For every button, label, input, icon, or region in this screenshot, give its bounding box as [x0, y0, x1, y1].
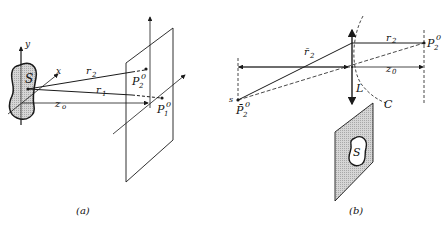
label-p2: P 2 0 — [426, 33, 441, 52]
caption-b: (b) — [349, 205, 363, 216]
svg-text:1: 1 — [102, 90, 106, 98]
svg-text:2: 2 — [242, 111, 248, 119]
svg-text:0: 0 — [245, 100, 250, 109]
svg-text:2: 2 — [138, 82, 144, 90]
label-r2bar: r̄ 2 — [304, 46, 315, 60]
panel-b: r̄ 2 r 2 P 2 0 z 0 L C s P̄ 2 0 S (b) — [229, 16, 441, 216]
panel-a: S y x r 2 r 1 z o P 2 0 P 1 0 (a) — [8, 17, 185, 216]
point-p2 — [144, 67, 147, 70]
label-p1: P 1 0 — [156, 100, 171, 118]
svg-text:0: 0 — [392, 68, 397, 76]
svg-text:0: 0 — [436, 33, 441, 42]
svg-text:2: 2 — [309, 52, 315, 60]
point-p2bar — [236, 98, 239, 101]
label-y: y — [24, 39, 31, 49]
label-z0: z 0 — [385, 63, 397, 76]
label-x: x — [56, 66, 61, 76]
svg-text:0: 0 — [166, 100, 171, 109]
label-p2: P 2 0 — [131, 72, 146, 90]
label-lens: L — [355, 82, 363, 95]
svg-text:z: z — [385, 63, 392, 74]
diagram-canvas: S y x r 2 r 1 z o P 2 0 P 1 0 (a) — [0, 0, 446, 230]
caption-a: (a) — [76, 205, 90, 216]
svg-text:2: 2 — [433, 44, 439, 52]
plane-diagonal-axis — [113, 75, 185, 134]
label-s: S — [25, 72, 33, 86]
svg-text:o: o — [62, 103, 66, 111]
svg-text:2: 2 — [91, 71, 97, 79]
ray-r1 — [28, 89, 132, 95]
label-r2: r 2 — [86, 65, 97, 79]
svg-text:2: 2 — [391, 37, 397, 45]
label-s: S — [353, 146, 361, 159]
label-r1: r 1 — [96, 84, 106, 98]
label-s-point: s — [229, 95, 233, 104]
point-p1 — [160, 96, 163, 99]
label-p2bar: P̄ 2 0 — [235, 100, 250, 119]
svg-text:z: z — [54, 98, 61, 109]
ray-r2bar — [238, 43, 352, 100]
svg-text:1: 1 — [164, 110, 168, 118]
point-p2 — [422, 41, 425, 44]
label-z0: z o — [54, 98, 66, 111]
ray-r2 — [28, 72, 132, 89]
svg-text:0: 0 — [141, 72, 146, 81]
label-curve-c: C — [384, 98, 393, 111]
